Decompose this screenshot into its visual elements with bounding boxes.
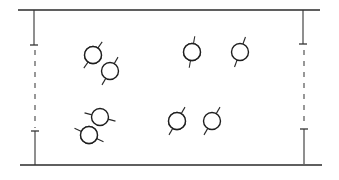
particle-outline [169, 113, 186, 130]
left-periodic-boundary [30, 10, 39, 165]
particle-outline [81, 127, 98, 144]
particle-filled [167, 104, 204, 149]
particle-circle [232, 44, 249, 61]
particle-circle [102, 63, 119, 80]
diagram-canvas [0, 0, 339, 180]
particle-filled [69, 123, 109, 147]
diagram-svg [0, 0, 339, 180]
particle-open [204, 107, 221, 135]
particle-circle [92, 109, 109, 126]
particle-open [85, 109, 116, 126]
particle-circle [204, 113, 221, 130]
particle-filled [169, 29, 201, 72]
right-periodic-boundary [299, 10, 308, 164]
particle-outline [85, 47, 102, 64]
particle-open [232, 37, 249, 67]
particle-open [102, 57, 119, 85]
particles-group [69, 29, 248, 148]
particle-outline [184, 44, 201, 61]
